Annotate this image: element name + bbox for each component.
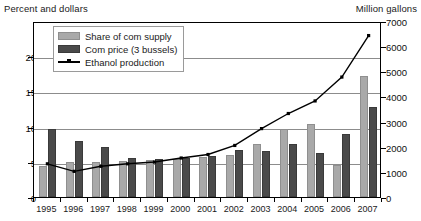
x-tick-mark [274, 198, 275, 202]
line-marker [367, 34, 370, 37]
right-tick-label: 7000 [386, 17, 407, 28]
line-marker [180, 156, 183, 159]
x-tick-mark [381, 198, 382, 202]
line-swatch-icon [58, 58, 80, 66]
legend-item-share: Share of com supply [58, 30, 177, 42]
x-axis-label: 2001 [197, 204, 217, 214]
right-tick-mark [381, 123, 386, 124]
x-axis-label: 2002 [224, 204, 244, 214]
legend-item-ethanol: Ethanol production [58, 56, 177, 68]
legend-item-price: Com price (3 bussels) [58, 43, 177, 55]
x-tick-mark [60, 198, 61, 202]
left-axis-title: Percent and dollars [4, 3, 88, 14]
line-marker [46, 162, 49, 165]
right-tick-mark [381, 72, 386, 73]
right-tick-label: 2000 [386, 142, 407, 153]
right-tick-label: 1000 [386, 167, 407, 178]
x-axis-label: 1999 [143, 204, 163, 214]
x-tick-mark [220, 198, 221, 202]
line-marker [153, 160, 156, 163]
line-marker [260, 127, 263, 130]
right-tick-mark [381, 148, 386, 149]
x-tick-mark [33, 198, 34, 202]
line-marker [340, 75, 343, 78]
line-marker [206, 153, 209, 156]
x-tick-mark [113, 198, 114, 202]
x-tick-mark [247, 198, 248, 202]
line-marker [126, 162, 129, 165]
x-tick-mark [194, 198, 195, 202]
price-swatch-icon [58, 45, 80, 53]
x-axis-label: 2000 [170, 204, 190, 214]
right-axis-title: Million gallons [356, 3, 417, 14]
line-marker [99, 165, 102, 168]
x-axis-label: 2005 [304, 204, 324, 214]
line-marker [73, 170, 76, 173]
line-marker [313, 99, 316, 102]
right-tick-mark [381, 97, 386, 98]
chart-container: Percent and dollars Million gallons 0510… [0, 0, 421, 221]
share-swatch-icon [58, 32, 80, 40]
x-tick-mark [140, 198, 141, 202]
right-tick-label: 6000 [386, 42, 407, 53]
x-tick-mark [354, 198, 355, 202]
x-tick-mark [87, 198, 88, 202]
x-axis-label: 2004 [277, 204, 297, 214]
right-tick-mark [381, 22, 386, 23]
x-tick-mark [327, 198, 328, 202]
x-axis-label: 1996 [63, 204, 83, 214]
x-axis-label: 1995 [36, 204, 56, 214]
x-tick-mark [167, 198, 168, 202]
right-tick-mark [381, 173, 386, 174]
x-axis-label: 2006 [331, 204, 351, 214]
line-marker [233, 144, 236, 147]
right-tick-mark [381, 47, 386, 48]
x-tick-mark [301, 198, 302, 202]
right-tick-label: 3000 [386, 117, 407, 128]
line-marker [287, 112, 290, 115]
right-tick-label: 5000 [386, 67, 407, 78]
legend-label-price: Com price (3 bussels) [85, 44, 177, 55]
x-axis-label: 1997 [90, 204, 110, 214]
x-axis-label: 2003 [251, 204, 271, 214]
legend-label-ethanol: Ethanol production [85, 57, 164, 68]
chart-legend: Share of com supply Com price (3 bussels… [53, 26, 184, 72]
right-tick-label: 4000 [386, 92, 407, 103]
x-axis-label: 1998 [117, 204, 137, 214]
x-axis-label: 2007 [358, 204, 378, 214]
legend-label-share: Share of com supply [85, 31, 172, 42]
right-tick-label: 0 [386, 193, 391, 204]
